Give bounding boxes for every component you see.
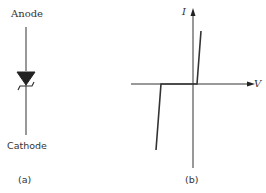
figure-canvas: [0, 0, 266, 193]
cathode-label: Cathode: [7, 141, 47, 151]
v-axis-label: V: [254, 79, 261, 89]
anode-label: Anode: [11, 9, 43, 19]
zener-diode-symbol: [17, 27, 35, 135]
i-axis-arrow-icon: [191, 8, 196, 16]
forward-curve: [193, 31, 201, 84]
caption-b: (b): [185, 175, 198, 185]
diode-triangle: [17, 72, 35, 85]
caption-a: (a): [18, 175, 31, 185]
iv-graph: [131, 8, 255, 168]
reverse-curve: [156, 84, 193, 150]
i-axis-label: I: [182, 7, 186, 17]
